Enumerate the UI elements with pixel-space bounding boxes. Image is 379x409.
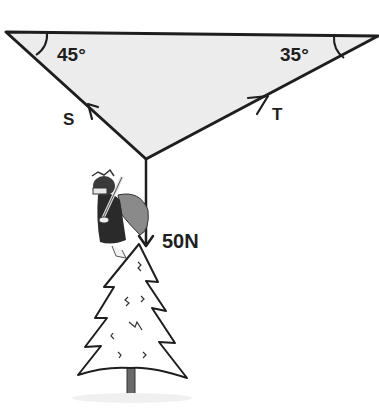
- force-label-t: T: [272, 106, 282, 123]
- force-label-s: S: [63, 111, 74, 128]
- ground-shadow: [72, 393, 192, 403]
- force-label-weight: 50N: [162, 231, 199, 251]
- christmas-tree-icon: [78, 244, 187, 402]
- angle-label-right: 35°: [280, 45, 309, 64]
- angle-label-left: 45°: [57, 45, 86, 64]
